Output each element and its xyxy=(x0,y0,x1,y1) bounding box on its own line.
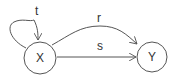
edge-r-label: r xyxy=(97,12,101,24)
edge-s-label: s xyxy=(97,40,103,52)
edge-t-label: t xyxy=(35,5,38,17)
node-x-label: X xyxy=(36,52,44,64)
edge-r xyxy=(52,26,137,45)
node-y-label: Y xyxy=(148,51,156,63)
diagram-canvas xyxy=(0,0,180,77)
